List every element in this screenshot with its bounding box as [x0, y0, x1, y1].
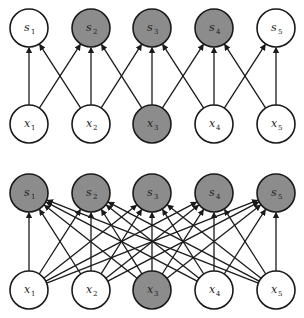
- node-subscript: 3: [154, 290, 158, 298]
- node-subscript: 3: [154, 193, 158, 201]
- output-node-s3: s3: [133, 9, 171, 47]
- output-node-s1: s1: [10, 174, 48, 212]
- node-label: x: [147, 283, 154, 296]
- node-label: s: [209, 186, 215, 199]
- node-label: s: [209, 21, 215, 34]
- output-node-s4: s4: [195, 174, 233, 212]
- node-label: x: [86, 117, 93, 130]
- node-label: x: [147, 117, 154, 130]
- output-node-s1: s1: [10, 9, 48, 47]
- node-label: x: [86, 283, 93, 296]
- node-label: x: [24, 283, 31, 296]
- node-subscript: 5: [278, 193, 282, 201]
- output-node-s2: s2: [72, 174, 110, 212]
- node-subscript: 2: [93, 28, 97, 36]
- input-node-x1: x1: [10, 271, 48, 309]
- input-node-x5: x5: [257, 271, 295, 309]
- node-label: s: [271, 21, 277, 34]
- output-node-s2: s2: [72, 9, 110, 47]
- output-node-s5: s5: [257, 9, 295, 47]
- node-subscript: 1: [31, 193, 35, 201]
- node-subscript: 2: [93, 193, 97, 201]
- node-subscript: 3: [154, 28, 158, 36]
- output-node-s3: s3: [133, 174, 171, 212]
- input-node-x2: x2: [72, 105, 110, 143]
- node-label: x: [271, 117, 278, 130]
- edges: [29, 44, 276, 108]
- node-label: s: [24, 21, 30, 34]
- node-subscript: 5: [278, 124, 282, 132]
- input-node-x1: x1: [10, 105, 48, 143]
- node-subscript: 4: [216, 124, 221, 132]
- node-subscript: 4: [216, 28, 221, 36]
- sparse-connectivity-panel: s1s2s3s4s5x1x2x3x4x5: [10, 9, 295, 143]
- node-label: s: [147, 21, 153, 34]
- node-subscript: 2: [93, 290, 97, 298]
- connectivity-diagram: s1s2s3s4s5x1x2x3x4x5 s1s2s3s4s5x1x2x3x4x…: [0, 0, 304, 318]
- node-label: s: [86, 186, 92, 199]
- node-subscript: 1: [31, 28, 35, 36]
- node-subscript: 1: [31, 290, 35, 298]
- node-label: s: [147, 186, 153, 199]
- node-label: s: [271, 186, 277, 199]
- node-subscript: 4: [216, 290, 221, 298]
- node-label: s: [86, 21, 92, 34]
- node-subscript: 5: [278, 28, 282, 36]
- input-node-x4: x4: [195, 271, 233, 309]
- node-subscript: 3: [154, 124, 158, 132]
- node-label: x: [24, 117, 31, 130]
- node-subscript: 1: [31, 124, 35, 132]
- output-node-s4: s4: [195, 9, 233, 47]
- input-node-x5: x5: [257, 105, 295, 143]
- output-node-s5: s5: [257, 174, 295, 212]
- node-label: x: [209, 117, 216, 130]
- input-node-x3: x3: [133, 271, 171, 309]
- input-node-x4: x4: [195, 105, 233, 143]
- node-label: x: [271, 283, 278, 296]
- node-label: s: [24, 186, 30, 199]
- node-subscript: 2: [93, 124, 97, 132]
- input-node-x2: x2: [72, 271, 110, 309]
- input-node-x3: x3: [133, 105, 171, 143]
- node-subscript: 5: [278, 290, 282, 298]
- dense-connectivity-panel: s1s2s3s4s5x1x2x3x4x5: [10, 174, 295, 309]
- node-label: x: [209, 283, 216, 296]
- node-subscript: 4: [216, 193, 221, 201]
